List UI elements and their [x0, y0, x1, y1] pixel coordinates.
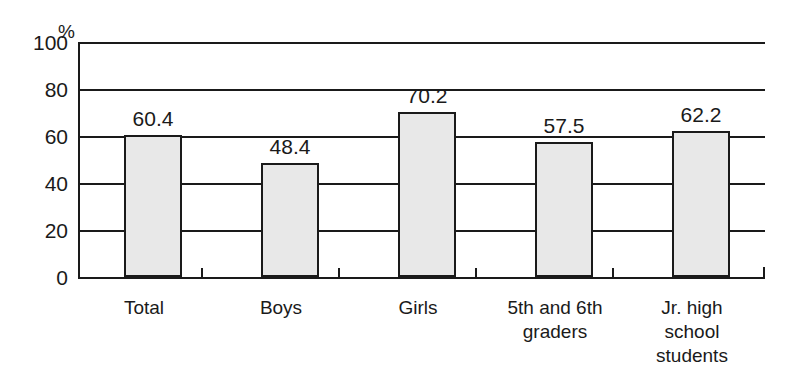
bar-value-5th-and-6th-graders: 57.5 [519, 115, 609, 136]
x-minor-tick-3 [475, 268, 477, 277]
bar-girls[interactable] [398, 112, 456, 277]
x-axis-right-cap [763, 267, 765, 277]
x-minor-tick-2 [338, 268, 340, 277]
x-category-label-jr-high-school-students-line-2: school [627, 320, 757, 344]
x-category-label-jr-high-school-students-line-1: Jr. high [627, 296, 757, 320]
x-category-label-5th-and-6th-graders-line-2: graders [490, 320, 620, 344]
y-tick-label-100: 100 [16, 32, 68, 53]
bar-value-total: 60.4 [108, 108, 198, 129]
y-tick-label-40: 40 [16, 173, 68, 194]
x-category-label-girls-line-1: Girls [353, 296, 483, 320]
bar-value-girls: 70.2 [382, 85, 472, 106]
y-tick-label-20: 20 [16, 220, 68, 241]
bar-value-jr-high-school-students: 62.2 [656, 104, 746, 125]
bar-jr-high-school-students[interactable] [672, 131, 730, 277]
bar-total[interactable] [124, 135, 182, 277]
x-category-label-jr-high-school-students-line-3: students [627, 344, 757, 368]
bar-value-boys: 48.4 [245, 136, 335, 157]
x-category-label-total: Total [79, 296, 209, 320]
x-category-label-girls: Girls [353, 296, 483, 320]
x-category-label-boys-line-1: Boys [216, 296, 346, 320]
gridline-100 [78, 42, 765, 44]
bar-boys[interactable] [261, 163, 319, 277]
x-minor-tick-1 [201, 268, 203, 277]
x-category-label-jr-high-school-students: Jr. high school students [627, 296, 757, 368]
x-category-label-total-line-1: Total [79, 296, 209, 320]
x-category-label-boys: Boys [216, 296, 346, 320]
x-minor-tick-4 [612, 268, 614, 277]
bar-5th-and-6th-graders[interactable] [535, 142, 593, 277]
y-tick-label-80: 80 [16, 79, 68, 100]
plot-area: 60.4 48.4 70.2 57.5 62.2 [78, 42, 765, 277]
y-tick-label-0: 0 [16, 267, 68, 288]
x-axis-line [78, 277, 765, 279]
bar-chart: % 100 80 60 40 20 0 60.4 48.4 70.2 57.5 … [0, 0, 795, 380]
y-tick-label-60: 60 [16, 126, 68, 147]
y-axis-line [78, 42, 80, 277]
x-category-label-5th-and-6th-graders-line-1: 5th and 6th [490, 296, 620, 320]
x-category-label-5th-and-6th-graders: 5th and 6th graders [490, 296, 620, 344]
